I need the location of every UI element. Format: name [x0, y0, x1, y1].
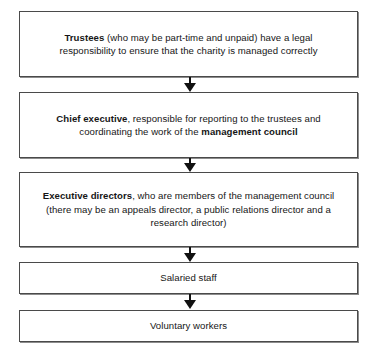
flowchart-node-chief-executive-label: Chief executive, responsible for reporti… [20, 112, 357, 139]
arrow-stem [189, 77, 191, 84]
flowchart-node-trustees-label: Trustees (who may be part-time and unpai… [20, 31, 357, 58]
arrow-head [184, 83, 196, 92]
flowchart-node-salaried-staff: Salaried staff [19, 262, 358, 294]
flowchart-node-chief-executive: Chief executive, responsible for reporti… [19, 92, 358, 158]
flowchart-node-voluntary-workers: Voluntary workers [19, 310, 358, 342]
flowchart-node-salaried-staff-label: Salaried staff [20, 271, 357, 284]
arrow-executive-directors-to-salaried-staff-icon [184, 247, 196, 262]
arrow-stem [189, 294, 191, 301]
arrow-chief-executive-to-executive-directors-icon [184, 158, 196, 172]
arrow-head [184, 253, 196, 262]
arrow-head [184, 163, 196, 172]
arrow-stem [189, 158, 191, 164]
flowchart-node-voluntary-workers-label: Voluntary workers [20, 319, 357, 332]
hierarchy-flowchart: Trustees (who may be part-time and unpai… [0, 0, 372, 349]
flowchart-node-executive-directors-label: Executive directors, who are members of … [20, 189, 357, 229]
arrow-salaried-staff-to-voluntary-workers-icon [184, 294, 196, 310]
arrow-trustees-to-chief-executive-icon [184, 77, 196, 92]
arrow-head [184, 300, 196, 309]
flowchart-node-executive-directors: Executive directors, who are members of … [19, 172, 358, 247]
arrow-stem [189, 247, 191, 254]
flowchart-node-trustees: Trustees (who may be part-time and unpai… [19, 11, 358, 77]
